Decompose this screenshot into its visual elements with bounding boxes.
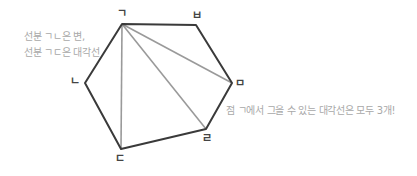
vertex-label-digeut: ㄷ (115, 153, 125, 164)
vertex-label-rieul: ㄹ (202, 133, 212, 144)
note-line-diagonal: 선분 ㄱㄷ은 대각선 (24, 45, 99, 61)
note-side-vs-diagonal: 선분 ㄱㄴ은 변, 선분 ㄱㄷ은 대각선 (24, 29, 99, 61)
diagonal-giyeok-mieum (122, 24, 232, 83)
vertex-label-bieup: ㅂ (192, 10, 202, 21)
note-line-side: 선분 ㄱㄴ은 변, (24, 29, 99, 45)
diagonal-giyeok-rieul (122, 24, 206, 129)
vertex-label-mieum: ㅁ (235, 78, 245, 89)
diagonal-giyeok-digeut (121, 24, 122, 149)
vertex-label-giyeok: ㄱ (117, 8, 127, 19)
vertex-label-nieun: ㄴ (70, 76, 80, 87)
note-diagonal-count: 점 ㄱ에서 그을 수 있는 대각선은 모두 3개! (226, 103, 395, 119)
hexagon-diagram (0, 0, 417, 176)
